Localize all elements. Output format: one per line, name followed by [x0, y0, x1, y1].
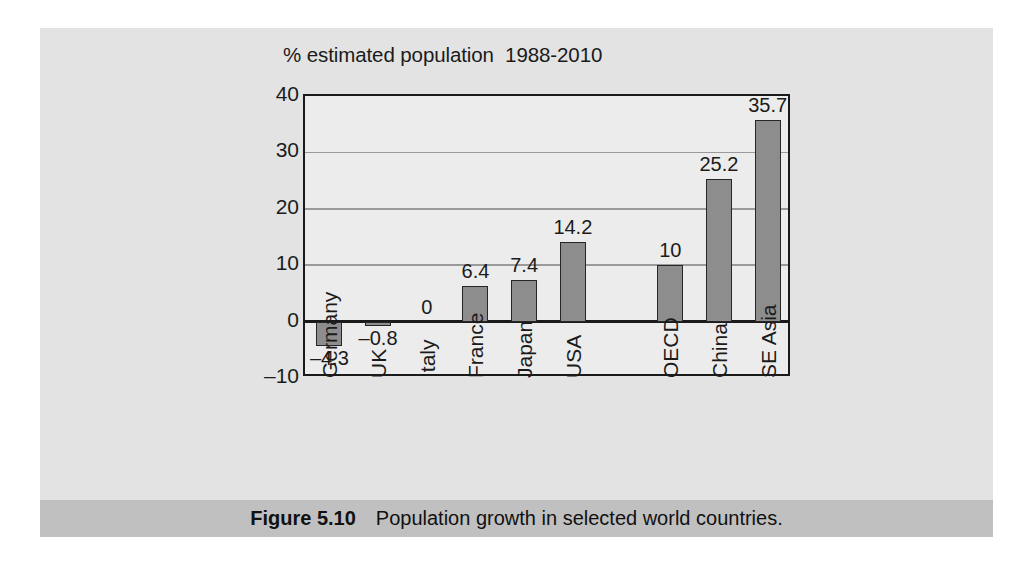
y-axis-tick-label: –10 [239, 364, 299, 388]
x-axis-tick-label: Germany [318, 292, 342, 378]
bar [511, 280, 537, 322]
bar [755, 120, 781, 321]
x-axis-tick-label: USA [562, 335, 586, 378]
y-axis-tick-label: 0 [239, 308, 299, 332]
y-axis: 403020100–10 [233, 94, 299, 376]
bar [657, 265, 683, 321]
x-axis-tick-label: France [464, 313, 488, 378]
bar-value-label: 6.4 [462, 260, 490, 283]
figure-caption-label: Figure 5.10 [250, 507, 356, 529]
x-axis-tick-label: Italy [416, 339, 440, 378]
y-axis-tick-label: 30 [239, 138, 299, 162]
x-axis-tick-label: OECD [659, 317, 683, 378]
y-axis-tick-label: 40 [239, 82, 299, 106]
x-axis-tick-label: China [708, 323, 732, 378]
chart-title: % estimated population 1988-2010 [283, 43, 602, 67]
x-axis-tick-label: Japan [513, 321, 537, 378]
y-axis-tick-label: 20 [239, 195, 299, 219]
bar-value-label: 10 [659, 239, 681, 262]
bar-value-label: 35.7 [748, 94, 787, 117]
bar-value-label: 7.4 [510, 254, 538, 277]
bar [706, 179, 732, 321]
bar-value-label: 14.2 [553, 216, 592, 239]
figure-caption: Figure 5.10 Population growth in selecte… [250, 507, 783, 530]
bar [365, 322, 391, 327]
figure-caption-bar: Figure 5.10 Population growth in selecte… [40, 500, 993, 537]
bar-value-label: –0.8 [359, 327, 398, 350]
figure-caption-description: Population growth in selected world coun… [356, 507, 783, 529]
bar-value-label: 0 [421, 296, 432, 319]
x-axis: GermanyUKItalyFranceJapanUSAOECDChinaSE … [303, 378, 790, 508]
x-axis-tick-label: UK [367, 349, 391, 378]
bar-value-label: 25.2 [699, 153, 738, 176]
bar [560, 242, 586, 322]
x-axis-tick-label: SE Asia [757, 304, 781, 378]
y-axis-tick-label: 10 [239, 251, 299, 275]
figure-panel: % estimated population 1988-2010 4030201… [40, 28, 993, 537]
